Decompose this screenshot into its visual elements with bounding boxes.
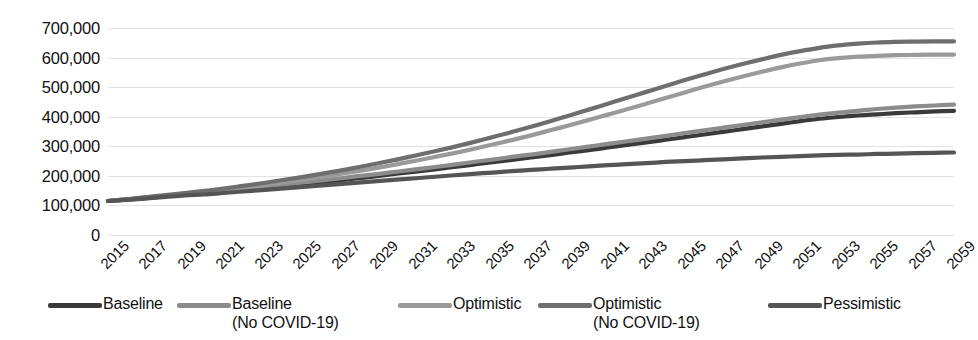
legend-item[interactable]: Pessimistic xyxy=(768,294,901,340)
legend-item[interactable]: Optimistic (No COVID-19) xyxy=(538,294,700,340)
legend-swatch xyxy=(177,303,231,308)
legend-item[interactable]: Baseline (No COVID-19) xyxy=(177,294,339,340)
gridline xyxy=(108,235,954,236)
x-tick-label: 2017 xyxy=(135,237,170,272)
legend-item[interactable]: Baseline xyxy=(48,294,163,340)
legend-swatch xyxy=(538,303,592,308)
legend-label: Baseline (No COVID-19) xyxy=(232,294,339,332)
x-tick-label: 2047 xyxy=(712,237,747,272)
x-tick-label: 2035 xyxy=(481,237,516,272)
y-tick-label: 400,000 xyxy=(42,107,100,126)
series-lines xyxy=(108,28,954,235)
x-tick-label: 2031 xyxy=(405,237,440,272)
x-tick-label: 2019 xyxy=(174,237,209,272)
x-tick-label: 2033 xyxy=(443,237,478,272)
x-tick-label: 2053 xyxy=(828,237,863,272)
y-axis: 0100,000200,000300,000400,000500,000600,… xyxy=(0,28,100,235)
x-tick-label: 2027 xyxy=(328,237,363,272)
x-tick-label: 2055 xyxy=(866,237,901,272)
x-tick-label: 2051 xyxy=(789,237,824,272)
x-tick-label: 2041 xyxy=(597,237,632,272)
series-line xyxy=(108,153,954,201)
legend-label: Optimistic (No COVID-19) xyxy=(593,294,700,332)
x-tick-label: 2049 xyxy=(751,237,786,272)
x-tick-label: 2045 xyxy=(674,237,709,272)
x-tick-label: 2029 xyxy=(366,237,401,272)
legend-swatch xyxy=(768,303,822,308)
x-tick-label: 2023 xyxy=(251,237,286,272)
legend-label: Baseline xyxy=(103,294,163,313)
chart-legend: BaselineBaseline (No COVID-19)Optimistic… xyxy=(0,294,954,340)
x-tick-label: 2043 xyxy=(635,237,670,272)
legend-label: Optimistic xyxy=(453,294,521,313)
y-tick-label: 500,000 xyxy=(42,78,100,97)
x-tick-label: 2037 xyxy=(520,237,555,272)
y-tick-label: 200,000 xyxy=(42,166,100,185)
x-tick-label: 2057 xyxy=(904,237,939,272)
y-tick-label: 700,000 xyxy=(42,19,100,38)
x-axis: 2015201720192021202320252027202920312033… xyxy=(108,237,954,295)
series-line xyxy=(108,41,954,201)
y-tick-label: 300,000 xyxy=(42,137,100,156)
x-tick-label: 2015 xyxy=(97,237,132,272)
y-tick-label: 0 xyxy=(91,226,100,245)
plot-area xyxy=(108,28,954,235)
legend-label: Pessimistic xyxy=(823,294,901,313)
y-tick-label: 600,000 xyxy=(42,48,100,67)
legend-swatch xyxy=(398,303,452,308)
x-tick-label: 2059 xyxy=(943,237,978,272)
x-tick-label: 2039 xyxy=(558,237,593,272)
legend-item[interactable]: Optimistic xyxy=(398,294,521,340)
x-tick-label: 2021 xyxy=(212,237,247,272)
y-tick-label: 100,000 xyxy=(42,196,100,215)
legend-swatch xyxy=(48,303,102,308)
x-tick-label: 2025 xyxy=(289,237,324,272)
